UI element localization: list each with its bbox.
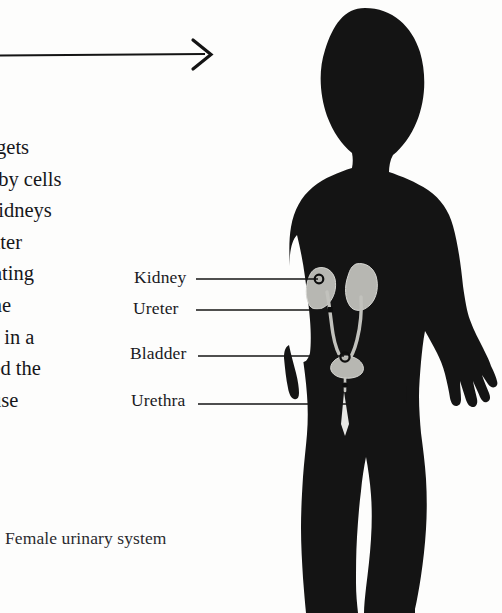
figure-caption: Female urinary system <box>5 528 167 549</box>
marker-urethra <box>342 382 347 387</box>
label-kidney: Kidney <box>134 268 186 286</box>
anatomy-figure <box>0 0 502 613</box>
label-ureter: Ureter <box>133 299 179 317</box>
marker-ureter <box>328 307 333 312</box>
label-bladder: Bladder <box>130 344 186 362</box>
page-canvas: TEM m gets e by cells kidneys vater crea… <box>0 0 502 613</box>
label-urethra: Urethra <box>131 391 186 409</box>
